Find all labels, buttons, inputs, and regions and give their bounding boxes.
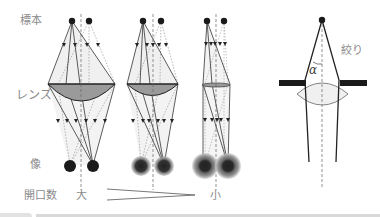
label-alpha: α [309, 64, 317, 76]
diaphragm-left [279, 80, 306, 86]
label-small: 小 [210, 190, 221, 201]
diagram-small-aperture [192, 14, 241, 190]
numerical-aperture-diagram [0, 0, 380, 217]
bottom-tab [0, 213, 32, 217]
image-point-2 [87, 160, 99, 172]
diagram-medium-aperture [127, 14, 178, 190]
label-specimen: 標本 [20, 15, 42, 26]
label-large: 大 [76, 190, 87, 201]
label-image: 像 [30, 159, 41, 170]
aperture-angle-diagram [279, 17, 367, 187]
label-diaphragm: 絞り [341, 45, 363, 56]
aperture-wedge [107, 189, 195, 200]
label-lens: レンズ [16, 89, 52, 101]
specimen-point-2 [86, 18, 92, 24]
diagram-large-aperture [48, 14, 115, 190]
point-source [319, 17, 325, 23]
label-numerical-aperture: 開口数 [24, 190, 57, 201]
bottom-divider [36, 214, 380, 217]
diaphragm-right [340, 80, 367, 86]
specimen-point-1 [69, 18, 75, 24]
image-point-1 [64, 160, 76, 172]
